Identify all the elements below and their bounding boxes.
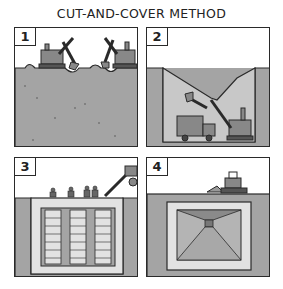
panel-2: 2	[146, 27, 270, 147]
excavator-left-icon	[39, 38, 79, 70]
diagram-title: CUT-AND-COVER METHOD	[0, 6, 283, 21]
panel-number: 4	[147, 158, 168, 176]
workers-icon	[50, 186, 98, 197]
panel-number: 3	[15, 158, 36, 176]
panel-1: 1	[14, 27, 138, 147]
panel-4: 4	[146, 157, 270, 277]
excavator-right-icon	[101, 38, 137, 68]
panel-number: 2	[147, 28, 168, 46]
concrete-pump-icon	[105, 166, 137, 196]
bulldozer-icon	[207, 172, 247, 193]
panel-3: 3	[14, 157, 138, 277]
panel-number: 1	[15, 28, 36, 46]
